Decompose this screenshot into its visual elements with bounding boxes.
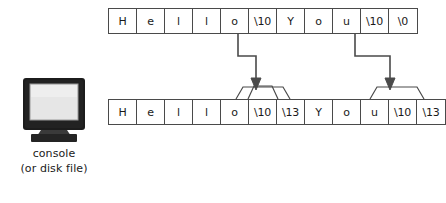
byte-cell: o	[333, 100, 361, 124]
byte-cell: \0	[389, 9, 417, 33]
crt-monitor-icon	[21, 78, 87, 142]
connector-elbow-line	[355, 34, 390, 78]
console-caption-line-1: console	[0, 146, 108, 161]
byte-cell: \13	[417, 100, 445, 124]
down-arrow-icon	[385, 78, 395, 90]
byte-cell: Y	[305, 100, 333, 124]
expansion-trapezoid	[236, 87, 290, 99]
byte-cell: l	[193, 9, 221, 33]
byte-cell: e	[137, 9, 165, 33]
byte-cell: H	[109, 9, 137, 33]
byte-cell: \10	[361, 9, 389, 33]
down-arrow-icon	[251, 78, 261, 90]
console-group: console (or disk file)	[0, 78, 108, 198]
file-byte-row: H e l l o \10 \13 Y o u \10 \13	[108, 99, 446, 125]
connector-elbow-line	[238, 34, 256, 78]
byte-cell: l	[193, 100, 221, 124]
newline-expansion-connector-1	[236, 34, 290, 99]
byte-cell: l	[165, 9, 193, 33]
byte-cell: \10	[389, 100, 417, 124]
byte-cell: o	[305, 9, 333, 33]
byte-cell: u	[333, 9, 361, 33]
byte-cell: \10	[249, 9, 277, 33]
memory-byte-row: H e l l o \10 Y o u \10 \0	[108, 8, 418, 34]
byte-cell: u	[361, 100, 389, 124]
expansion-bracket	[248, 86, 278, 99]
byte-cell: o	[221, 100, 249, 124]
byte-cell: \13	[277, 100, 305, 124]
byte-cell: Y	[277, 9, 305, 33]
byte-cell: o	[221, 9, 249, 33]
expansion-trapezoid	[370, 87, 424, 99]
byte-cell: e	[137, 100, 165, 124]
byte-cell: l	[165, 100, 193, 124]
console-caption-line-2: (or disk file)	[0, 161, 108, 176]
byte-cell: \10	[249, 100, 277, 124]
newline-expansion-connector-2	[355, 34, 424, 99]
console-caption: console (or disk file)	[0, 146, 108, 176]
byte-cell: H	[109, 100, 137, 124]
